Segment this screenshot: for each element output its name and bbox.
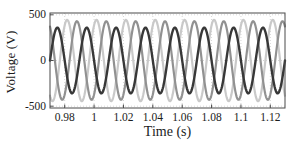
x-axis-label: Time (s) [50,124,285,140]
y-tick-label: 500 [6,9,46,20]
y-tick-label: -500 [6,101,46,112]
x-tick-label: 1.12 [250,111,290,123]
y-tick-label: 0 [6,55,46,66]
voltage-waveform-figure: Voltage (V) Time (s) 5000-500 0.9811.021… [0,0,294,143]
